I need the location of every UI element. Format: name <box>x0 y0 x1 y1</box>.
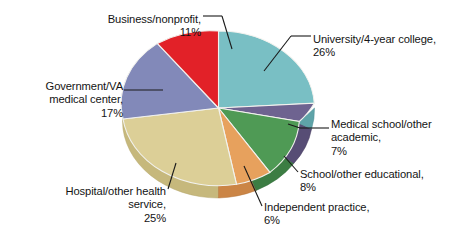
pie-label-university: University/4-year college, 26% <box>313 33 468 60</box>
pie-slice-university[interactable] <box>219 31 315 108</box>
pie-label-hospital-other-health-service: Hospital/other health service, 25% <box>18 185 166 225</box>
pie-slice-hospital[interactable] <box>123 108 237 186</box>
pie-label-business-nonprofit: Business/nonprofit, 11% <box>57 13 201 40</box>
pie-label-school-other-educational: School/other educational, 8% <box>300 168 468 195</box>
pie-label-independent-practice: Independent practice, 6% <box>264 201 414 228</box>
pie-label-government-va-medical-center: Government/VA medical center, 17% <box>6 80 123 120</box>
pie-label-medical-school: Medical school/other academic, 7% <box>331 118 469 158</box>
pie-chart-figure: Business/nonprofit, 11% University/4-yea… <box>0 0 470 250</box>
